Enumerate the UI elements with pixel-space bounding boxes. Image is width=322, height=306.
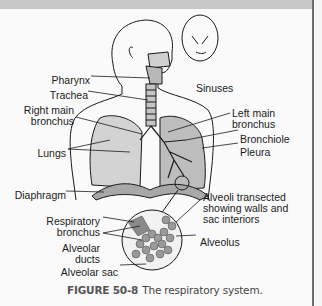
label-pleura: Pleura bbox=[240, 147, 270, 158]
respiratory-system-figure: Pharynx Trachea Right main bronchus Lung… bbox=[0, 9, 312, 306]
figure-number: FIGURE 50-8 bbox=[67, 284, 138, 296]
label-respiratory-bronchus-2: bronchus bbox=[20, 227, 100, 238]
label-lungs: Lungs bbox=[14, 148, 66, 159]
label-alveolar-ducts-2: ducts bbox=[40, 254, 100, 265]
diaphragm-icon bbox=[92, 184, 208, 200]
label-diaphragm: Diaphragm bbox=[4, 190, 66, 201]
label-trachea: Trachea bbox=[34, 90, 88, 101]
label-sinuses: Sinuses bbox=[196, 83, 233, 94]
label-alveoli-transected-3: sac interiors bbox=[203, 214, 260, 225]
label-alveolus: Alveolus bbox=[200, 237, 240, 248]
sinus-head-icon bbox=[182, 15, 218, 61]
label-bronchiole: Bronchiole bbox=[240, 134, 290, 145]
label-alveolar-sac: Alveolar sac bbox=[40, 267, 118, 278]
nasal-cavity-icon bbox=[148, 52, 170, 68]
label-right-main-bronchus-2: bronchus bbox=[10, 116, 74, 127]
figure-caption: FIGURE 50-8The respiratory system. bbox=[67, 284, 263, 296]
right-lung-icon bbox=[90, 116, 142, 188]
page-top-band bbox=[0, 0, 313, 9]
label-pharynx: Pharynx bbox=[36, 75, 90, 86]
label-left-main-bronchus-2: bronchus bbox=[232, 119, 275, 130]
figure-caption-text: The respiratory system. bbox=[142, 284, 262, 296]
page-right-rule bbox=[312, 0, 314, 306]
pharynx-icon bbox=[146, 66, 162, 84]
